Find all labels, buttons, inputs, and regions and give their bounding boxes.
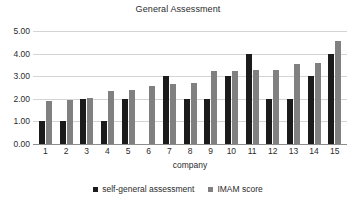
bar bbox=[163, 76, 169, 144]
x-axis-tick-label: 15 bbox=[324, 146, 345, 159]
y-axis-tick-label: 5.00 bbox=[0, 26, 30, 36]
bar bbox=[39, 121, 45, 144]
bar bbox=[122, 99, 128, 144]
bar-group bbox=[159, 31, 180, 144]
bar bbox=[211, 71, 217, 144]
x-axis-tick-labels: 123456789101112131415 bbox=[33, 146, 347, 159]
bar bbox=[67, 100, 73, 144]
bar bbox=[315, 63, 321, 144]
x-axis-tick-label: 9 bbox=[200, 146, 221, 159]
bar bbox=[204, 99, 210, 144]
x-axis-tick-label: 2 bbox=[56, 146, 77, 159]
bar bbox=[266, 99, 272, 144]
x-axis-tick-label: 8 bbox=[180, 146, 201, 159]
bar bbox=[328, 54, 334, 144]
bar bbox=[101, 121, 107, 144]
bar-group bbox=[262, 31, 283, 144]
y-axis-tick-label: 1.00 bbox=[0, 116, 30, 126]
x-axis-tick-label: 7 bbox=[159, 146, 180, 159]
bar-group bbox=[304, 31, 325, 144]
legend-swatch-icon bbox=[208, 187, 213, 192]
bar bbox=[80, 99, 86, 144]
bar bbox=[308, 76, 314, 144]
bar-groups bbox=[33, 31, 347, 144]
chart-title: General Assessment bbox=[0, 4, 356, 14]
bar bbox=[191, 83, 197, 144]
bar bbox=[246, 54, 252, 144]
y-axis-tick-label: 3.00 bbox=[0, 71, 30, 81]
x-axis-tick-label: 5 bbox=[118, 146, 139, 159]
axis-baseline bbox=[33, 144, 347, 145]
bar bbox=[60, 121, 66, 144]
bar bbox=[335, 41, 341, 144]
bar-group bbox=[221, 31, 242, 144]
legend-swatch-icon bbox=[93, 187, 98, 192]
x-axis-tick-label: 11 bbox=[242, 146, 263, 159]
bar bbox=[225, 76, 231, 144]
bar bbox=[149, 86, 155, 144]
y-axis-tick-labels: 0.001.002.003.004.005.00 bbox=[0, 31, 30, 144]
bar bbox=[87, 98, 93, 144]
legend-item[interactable]: self-general assessment bbox=[93, 184, 194, 194]
x-axis-tick-label: 10 bbox=[221, 146, 242, 159]
bar-group bbox=[118, 31, 139, 144]
legend-label: self-general assessment bbox=[102, 184, 194, 194]
bar-group bbox=[324, 31, 345, 144]
bar bbox=[184, 99, 190, 144]
bar-group bbox=[180, 31, 201, 144]
legend-item[interactable]: IMAM score bbox=[208, 184, 262, 194]
bar bbox=[129, 90, 135, 144]
x-axis-tick-label: 1 bbox=[35, 146, 56, 159]
bar bbox=[232, 71, 238, 144]
bar bbox=[287, 99, 293, 144]
x-axis-tick-label: 14 bbox=[304, 146, 325, 159]
bar-group bbox=[283, 31, 304, 144]
x-axis-tick-label: 6 bbox=[138, 146, 159, 159]
bar-group bbox=[97, 31, 118, 144]
bar-group bbox=[76, 31, 97, 144]
chart-container: General Assessment 0.001.002.003.004.005… bbox=[0, 0, 356, 205]
bar bbox=[294, 64, 300, 144]
legend-label: IMAM score bbox=[217, 184, 262, 194]
y-axis-tick-label: 2.00 bbox=[0, 94, 30, 104]
bar bbox=[108, 91, 114, 144]
bar-group bbox=[242, 31, 263, 144]
bar bbox=[170, 84, 176, 144]
bar-group bbox=[56, 31, 77, 144]
bar bbox=[253, 70, 259, 144]
y-axis-tick-label: 4.00 bbox=[0, 49, 30, 59]
x-axis-tick-label: 4 bbox=[97, 146, 118, 159]
bar bbox=[46, 101, 52, 144]
x-axis-title: company bbox=[33, 160, 347, 170]
chart-legend: self-general assessmentIMAM score bbox=[0, 184, 356, 194]
plot-area bbox=[33, 31, 347, 144]
bar-group bbox=[200, 31, 221, 144]
x-axis-tick-label: 12 bbox=[262, 146, 283, 159]
y-axis-tick-label: 0.00 bbox=[0, 139, 30, 149]
bar bbox=[273, 70, 279, 144]
x-axis-tick-label: 3 bbox=[76, 146, 97, 159]
bar-group bbox=[138, 31, 159, 144]
bar-group bbox=[35, 31, 56, 144]
x-axis-tick-label: 13 bbox=[283, 146, 304, 159]
